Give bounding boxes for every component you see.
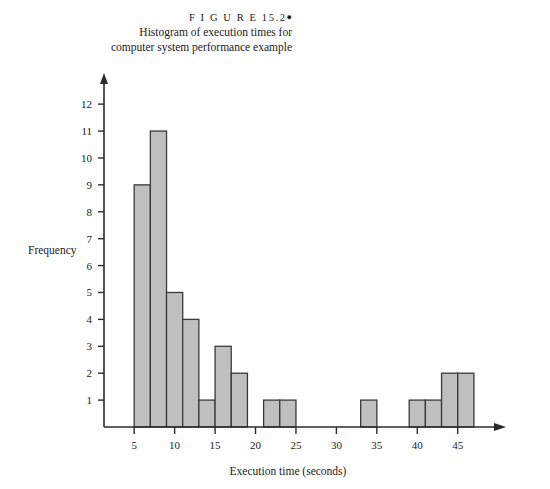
x-tick-label: 45 (452, 439, 464, 451)
histogram-bar (183, 319, 199, 427)
histogram-svg: 51015202530354045 123456789101112 Freque… (0, 0, 550, 489)
histogram-bar (150, 131, 166, 427)
y-tick-label: 7 (87, 233, 93, 245)
y-tick-label: 2 (87, 367, 93, 379)
histogram-bar (361, 400, 377, 427)
y-tick-label: 6 (87, 260, 93, 272)
y-tick-label: 4 (87, 313, 93, 325)
histogram-bar (458, 373, 474, 427)
histogram-bar (134, 185, 150, 427)
y-tick-label: 5 (87, 286, 93, 298)
y-tick-label: 12 (81, 98, 92, 110)
histogram-bar (199, 400, 215, 427)
x-tick-label: 10 (169, 439, 181, 451)
x-axis-title: Execution time (seconds) (230, 465, 347, 478)
histogram-bar (215, 346, 231, 427)
histogram-bar (167, 292, 183, 427)
y-tick-label: 8 (87, 206, 93, 218)
histogram-bar (409, 400, 425, 427)
x-tick-label: 40 (412, 439, 424, 451)
y-axis-ticks: 123456789101112 (81, 98, 104, 406)
bars-group (134, 131, 474, 427)
y-tick-label: 9 (87, 179, 93, 191)
x-axis-arrow-icon (494, 423, 506, 431)
y-tick-label: 1 (87, 394, 93, 406)
x-tick-label: 15 (210, 439, 222, 451)
histogram-bar (264, 400, 280, 427)
histogram-bar (442, 373, 458, 427)
y-axis-title: Frequency (28, 244, 77, 257)
x-axis-ticks: 51015202530354045 (131, 427, 463, 451)
histogram-figure: 51015202530354045 123456789101112 Freque… (0, 0, 550, 489)
x-tick-label: 20 (250, 439, 262, 451)
y-tick-label: 11 (81, 125, 92, 137)
histogram-bar (425, 400, 441, 427)
y-tick-label: 10 (81, 152, 93, 164)
x-tick-label: 5 (131, 439, 137, 451)
x-tick-label: 30 (331, 439, 343, 451)
histogram-bar (231, 373, 247, 427)
x-tick-label: 25 (290, 439, 302, 451)
y-tick-label: 3 (87, 340, 93, 352)
x-tick-label: 35 (371, 439, 383, 451)
histogram-bar (280, 400, 296, 427)
y-axis-arrow-icon (100, 73, 108, 84)
